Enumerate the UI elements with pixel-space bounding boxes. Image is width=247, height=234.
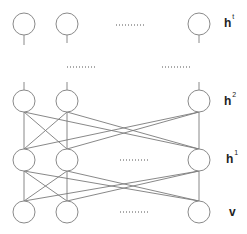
node-h2-1 — [13, 90, 35, 112]
layer-v-nodes — [13, 201, 210, 223]
node-ht-1 — [13, 13, 35, 35]
label-text: v — [229, 205, 236, 219]
node-h2-2 — [56, 90, 78, 112]
label-layer-h2: h2 — [224, 94, 236, 108]
label-layer-h1: h1 — [226, 152, 238, 166]
node-h1-n — [188, 149, 210, 171]
label-text: h — [224, 16, 231, 30]
node-v-1 — [13, 201, 35, 223]
node-ht-n — [188, 13, 210, 35]
node-v-n — [188, 201, 210, 223]
layer-h1-nodes — [13, 149, 210, 171]
ellipsis-markers — [67, 25, 191, 212]
label-text: h — [226, 152, 233, 166]
edges-h2-h1 — [24, 112, 199, 149]
node-h1-2 — [56, 149, 78, 171]
label-superscript: 1 — [234, 149, 238, 156]
dbn-diagram — [0, 0, 247, 234]
label-layer-ht: ht — [224, 16, 234, 30]
node-h1-1 — [13, 149, 35, 171]
label-superscript: 2 — [232, 91, 236, 98]
edges-h1-v — [24, 171, 199, 201]
edge-stubs — [24, 35, 199, 90]
label-layer-v: v — [229, 205, 236, 219]
node-ht-2 — [56, 13, 78, 35]
label-text: h — [224, 94, 231, 108]
layer-ht-nodes — [13, 13, 210, 35]
node-v-2 — [56, 201, 78, 223]
node-h2-n — [188, 90, 210, 112]
layer-h2-nodes — [13, 90, 210, 112]
